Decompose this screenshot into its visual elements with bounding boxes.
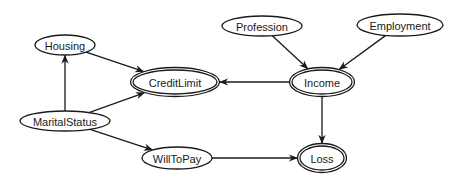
node-label: CreditLimit	[149, 77, 202, 89]
edge-maritalstatus-to-willtopay	[90, 129, 152, 149]
bayesian-network-diagram: HousingProfessionEmploymentCreditLimitIn…	[0, 0, 457, 183]
node-maritalstatus: MaritalStatus	[20, 111, 110, 131]
node-label: Employment	[369, 20, 430, 32]
edge-profession-to-income	[272, 36, 307, 69]
edges-layer	[65, 35, 386, 158]
node-willtopay: WillToPay	[142, 147, 212, 169]
edge-maritalstatus-to-creditlimit	[89, 93, 144, 113]
node-profession: Profession	[222, 16, 302, 36]
nodes-layer: HousingProfessionEmploymentCreditLimitIn…	[20, 14, 443, 173]
node-label: Income	[304, 77, 340, 89]
node-creditlimit: CreditLimit	[131, 68, 220, 97]
node-loss: Loss	[298, 144, 347, 173]
node-label: Profession	[236, 21, 288, 33]
node-label: Housing	[45, 40, 85, 52]
node-income: Income	[290, 68, 355, 97]
node-label: WillToPay	[153, 153, 202, 165]
edge-employment-to-income	[339, 35, 385, 69]
node-label: Loss	[310, 153, 334, 165]
node-label: MaritalStatus	[33, 116, 98, 128]
node-employment: Employment	[357, 14, 443, 36]
edge-housing-to-creditlimit	[86, 52, 143, 71]
node-housing: Housing	[35, 35, 95, 55]
